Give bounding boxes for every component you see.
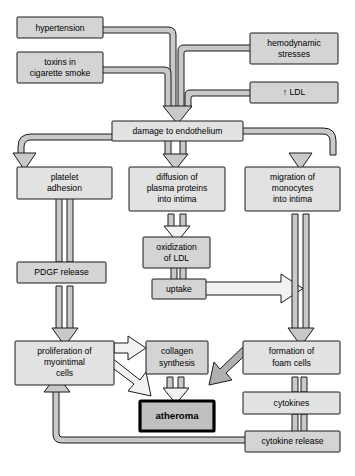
node-collagen-label-line2: synthesis	[159, 358, 195, 368]
edge-pdgf-to-proliferation	[56, 286, 62, 330]
node-damage-label: damage to endothelium	[133, 126, 223, 136]
node-proliferation-label-line3: cells	[56, 368, 73, 378]
node-cytokine-release[interactable]: cytokine release	[245, 431, 340, 452]
edge-uptake-to-migration	[203, 274, 303, 303]
node-ldl-label: ↑ LDL	[283, 87, 306, 97]
node-damage-to-endothelium[interactable]: damage to endothelium	[112, 121, 243, 141]
node-cytokines-label: cytokines	[274, 398, 310, 408]
node-hemodynamic[interactable]: hemodynamic stresses	[250, 33, 338, 64]
node-pdgf-label: PDGF release	[34, 267, 89, 277]
edge-foamcells-to-cytokines	[292, 377, 298, 392]
edge-migration-to-foamcells-b	[303, 214, 309, 330]
node-migration-label-line3: into intima	[273, 194, 312, 204]
edge-pdgf-to-proliferation-b	[67, 286, 73, 330]
edge-damage-to-platelet	[18, 134, 114, 155]
node-platelet-label-line2: adhesion	[47, 183, 82, 193]
edge-migration-to-foamcells	[292, 214, 298, 330]
node-proliferation-label-line2: myointimal	[44, 357, 85, 367]
node-cytokines[interactable]: cytokines	[243, 392, 340, 414]
node-atheroma[interactable]: atheroma	[140, 401, 214, 431]
node-pdgf-release[interactable]: PDGF release	[17, 262, 106, 283]
node-diffusion-label-line2: plasma proteins	[147, 183, 208, 193]
node-toxins-label-line2: cigarette smoke	[30, 68, 91, 78]
node-migration-label-line1: migration of	[270, 172, 316, 182]
node-cytokine-release-label: cytokine release	[261, 436, 323, 446]
node-hemodynamic-label-line1: hemodynamic	[267, 38, 321, 48]
flowchart-canvas: hypertension toxins in cigarette smoke h…	[0, 0, 355, 476]
edge-platelet-to-pdgf	[56, 198, 62, 262]
edge-platelet-to-pdgf-b	[67, 198, 73, 262]
node-toxins[interactable]: toxins in cigarette smoke	[17, 52, 103, 83]
node-collagen-label-line1: collagen	[161, 346, 193, 356]
node-migration[interactable]: migration of monocytes into intima	[245, 167, 340, 211]
edge-damage-to-migration	[241, 128, 336, 155]
node-platelet-label-line1: platelet	[51, 172, 79, 182]
edge-proliferation-to-collagen	[114, 336, 146, 360]
node-platelet-adhesion[interactable]: platelet adhesion	[17, 167, 112, 199]
node-foam-cells[interactable]: formation of foam cells	[243, 341, 340, 374]
node-diffusion[interactable]: diffusion of plasma proteins into intima	[129, 167, 225, 211]
node-foamcells-label-line1: formation of	[269, 346, 315, 356]
node-foamcells-label-line2: foam cells	[272, 358, 311, 368]
edge-toxins-to-damage	[101, 67, 171, 108]
edge-ldl-to-damage	[185, 90, 252, 108]
node-proliferation-label-line1: proliferation of	[37, 346, 92, 356]
node-uptake[interactable]: uptake	[152, 279, 206, 299]
node-diffusion-label-line1: diffusion of	[156, 172, 198, 182]
atheroma-pathogenesis-diagram: hypertension toxins in cigarette smoke h…	[0, 0, 355, 476]
node-ldl[interactable]: ↑ LDL	[250, 82, 338, 103]
node-hypertension-label: hypertension	[35, 23, 84, 33]
node-uptake-label: uptake	[166, 284, 192, 294]
node-diffusion-label-line3: into intima	[157, 194, 196, 204]
node-migration-label-line2: monocytes	[272, 183, 314, 193]
node-toxins-label-line1: toxins in	[44, 57, 76, 67]
node-hemodynamic-label-line2: stresses	[278, 49, 310, 59]
node-oxidization-label-line1: oxidization	[156, 242, 197, 252]
node-oxidization-label-line2: of LDL	[164, 253, 190, 263]
node-collagen-synthesis[interactable]: collagen synthesis	[146, 341, 208, 374]
node-proliferation[interactable]: proliferation of myointimal cells	[15, 341, 114, 385]
node-oxidization[interactable]: oxidization of LDL	[143, 237, 210, 268]
node-hypertension[interactable]: hypertension	[17, 17, 103, 38]
node-atheroma-label: atheroma	[155, 410, 199, 421]
edge-foamcells-to-cytokines-b	[301, 377, 307, 392]
